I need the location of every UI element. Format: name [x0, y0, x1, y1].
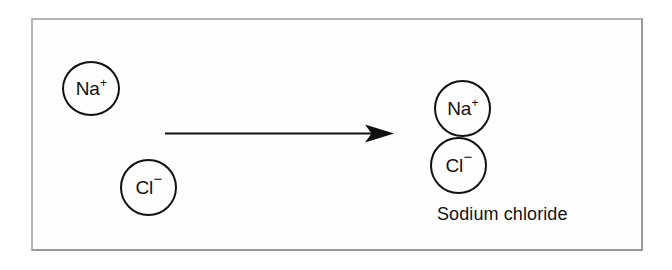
product-sodium-ion-label: Na+	[447, 99, 478, 118]
reaction-arrow	[165, 120, 395, 148]
chloride-charge-superscript: −	[153, 170, 162, 187]
reactant-sodium-ion-circle: Na+	[62, 61, 120, 116]
chloride-symbol-text: Cl	[135, 177, 153, 198]
product-chloride-ion-circle: Cl−	[430, 137, 487, 194]
chloride-symbol-text: Cl	[445, 155, 463, 176]
reactant-chloride-ion-label: Cl−	[135, 178, 161, 197]
sodium-symbol-text: Na	[76, 78, 100, 99]
sodium-charge-superscript: +	[472, 96, 479, 110]
product-chloride-ion-label: Cl−	[445, 156, 471, 175]
product-sodium-ion-circle: Na+	[434, 80, 491, 137]
sodium-charge-superscript: +	[100, 76, 107, 90]
chloride-charge-superscript: −	[463, 148, 472, 165]
reaction-arrow-icon	[165, 120, 395, 148]
reactant-sodium-ion-label: Na+	[76, 79, 107, 98]
reactant-chloride-ion-circle: Cl−	[120, 159, 177, 216]
sodium-symbol-text: Na	[447, 98, 471, 119]
figure-canvas: Na+ Cl− Na+ Cl− Sodium chloride	[0, 0, 672, 270]
figure-frame: Na+ Cl− Na+ Cl− Sodium chloride	[31, 18, 643, 251]
product-caption: Sodium chloride	[437, 204, 568, 225]
